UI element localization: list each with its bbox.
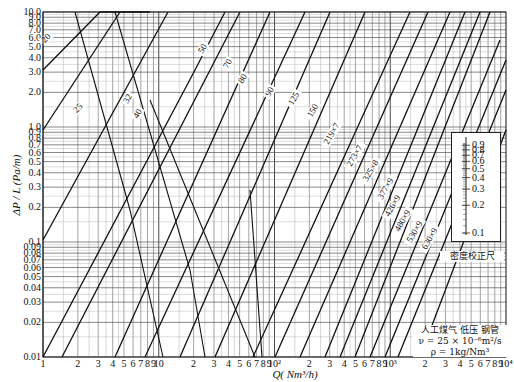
- x-tick-label: 10: [154, 358, 164, 369]
- x-tick-label: 3: [211, 358, 216, 369]
- note-line-2: ν = 25 × 10⁻⁶m²/s: [413, 336, 507, 347]
- y-tick-label: 0.4: [29, 167, 42, 178]
- x-tick-label: 10³: [384, 358, 397, 369]
- y-tick-label: 2.0: [29, 86, 42, 97]
- velocity-line: [150, 100, 255, 357]
- x-tick-label: 4: [457, 358, 462, 369]
- pipe-line-90: [215, 12, 365, 357]
- x-axis-title: Q( Nm³/h): [272, 368, 317, 381]
- x-tick-label: 8: [145, 358, 150, 369]
- y-tick-label: 0.02: [24, 316, 42, 327]
- pipe-line-150: [275, 12, 428, 357]
- x-tick-label: 1: [41, 358, 46, 369]
- x-tick-label: 7: [138, 358, 143, 369]
- x-tick-label: 2: [423, 358, 428, 369]
- x-tick-label: 7: [254, 358, 259, 369]
- y-tick-label: 3.0: [29, 66, 42, 77]
- pipe-size-label: 20: [39, 31, 53, 45]
- y-tick-label: 0.03: [24, 296, 42, 307]
- x-tick-label: 4: [342, 358, 347, 369]
- velocity-line: [115, 12, 205, 357]
- x-tick-label: 4: [226, 358, 231, 369]
- y-tick-label: 0.3: [29, 181, 42, 192]
- note-line-3: ρ = 1kg/Nm³: [413, 347, 507, 358]
- density-scale: 0.90.80.70.60.50.40.30.20.1: [452, 133, 500, 241]
- pipe-size-label: 219×7: [321, 121, 341, 146]
- x-tick-label: 8: [261, 358, 266, 369]
- x-tick-label: 6: [362, 358, 367, 369]
- density-scale-title: 密度校正尺: [440, 251, 504, 262]
- y-tick-label: 0.5: [29, 156, 42, 167]
- density-tick-label: 0.3: [472, 183, 485, 194]
- x-tick-label: 5: [469, 358, 474, 369]
- x-tick-label: 8: [492, 358, 497, 369]
- x-tick-label: 5: [237, 358, 242, 369]
- y-tick-label: 0.2: [29, 201, 42, 212]
- x-tick-label: 2: [75, 358, 80, 369]
- density-tick-label: 0.4: [472, 172, 485, 183]
- pipe-line-80: [180, 12, 330, 357]
- x-tick-label: 5: [353, 358, 358, 369]
- x-tick-label: 6: [131, 358, 136, 369]
- x-tick-label: 5: [121, 358, 126, 369]
- y-axis-title: ΔP / L (Pa/m): [10, 154, 23, 216]
- y-tick-label: 0.05: [24, 271, 42, 282]
- note-line-1: 人工煤气 低压 钢管: [413, 325, 507, 336]
- x-tick-label: 6: [478, 358, 483, 369]
- x-tick-label: 4: [110, 358, 115, 369]
- y-tick-label: 5.0: [29, 41, 42, 52]
- x-tick-label: 7: [486, 358, 491, 369]
- x-tick-label: 3: [443, 358, 448, 369]
- pipe-line-50: [115, 12, 270, 357]
- x-tick-label: 3: [96, 358, 101, 369]
- pipe-line-32: [43, 12, 225, 357]
- x-tick-label: 2: [191, 358, 196, 369]
- pipe-line-273×7: [325, 12, 465, 357]
- x-tick-label: 6: [246, 358, 251, 369]
- density-tick-label: 0.1: [472, 227, 485, 238]
- y-tick-label: 0.01: [24, 351, 42, 362]
- chart-note: 人工煤气 低压 钢管 ν = 25 × 10⁻⁶m²/s ρ = 1kg/Nm³: [413, 325, 507, 357]
- pipe-line-25: [43, 12, 168, 240]
- x-tick-label: 8: [377, 358, 382, 369]
- pipe-line-20: [43, 12, 150, 70]
- x-tick-label: 7: [370, 358, 375, 369]
- pipe-size-label: 273×7: [344, 143, 364, 168]
- x-tick-label: 3: [327, 358, 332, 369]
- x-tick-label: 10⁴: [499, 358, 513, 369]
- y-tick-label: 4.0: [29, 52, 42, 63]
- density-scale-box: 0.90.80.70.60.50.40.30.20.1: [451, 132, 501, 242]
- y-tick-label: 0.04: [24, 282, 42, 293]
- pipe-size-label: 25: [71, 101, 85, 115]
- density-tick-label: 0.2: [472, 199, 485, 210]
- grid: [43, 12, 506, 357]
